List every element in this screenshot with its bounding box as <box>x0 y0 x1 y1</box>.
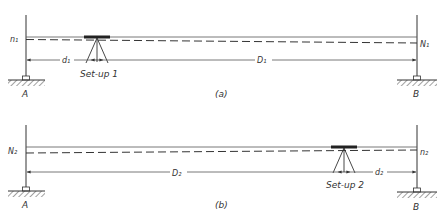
benchmark-b-left <box>8 187 45 197</box>
reciprocal-leveling-diagram: n₁ N₁ d₁ D₁ Set-up 1 A B (a) <box>0 0 446 220</box>
station-A-b: A <box>21 200 28 210</box>
label-setup-2: Set-up 2 <box>326 180 364 190</box>
reading-N2: N₂ <box>8 147 18 156</box>
panel-b: N₂ n₂ D₂ d₂ Set-up 2 A B (b) <box>8 125 437 212</box>
caption-a: (a) <box>215 89 228 99</box>
label-d2: d₂ <box>375 168 384 177</box>
reading-N1: N₁ <box>420 40 429 49</box>
label-D2: D₂ <box>172 169 182 178</box>
line-of-sight-a <box>26 40 417 44</box>
caption-b: (b) <box>215 200 228 210</box>
benchmark-b-right <box>397 188 437 198</box>
station-B-b: B <box>413 202 419 212</box>
label-setup-1: Set-up 1 <box>80 69 118 79</box>
station-B-a: B <box>413 89 419 99</box>
label-d1: d₁ <box>62 56 70 65</box>
instrument-setup-2 <box>331 146 357 174</box>
line-of-sight-b <box>26 150 417 153</box>
panel-a: n₁ N₁ d₁ D₁ Set-up 1 A B (a) <box>8 15 437 99</box>
label-D1: D₁ <box>257 56 266 65</box>
reading-n2: n₂ <box>420 148 429 157</box>
benchmark-a-left <box>8 76 45 86</box>
station-A-a: A <box>21 89 28 99</box>
benchmark-a-right <box>397 76 437 86</box>
reading-n1: n₁ <box>10 35 18 44</box>
